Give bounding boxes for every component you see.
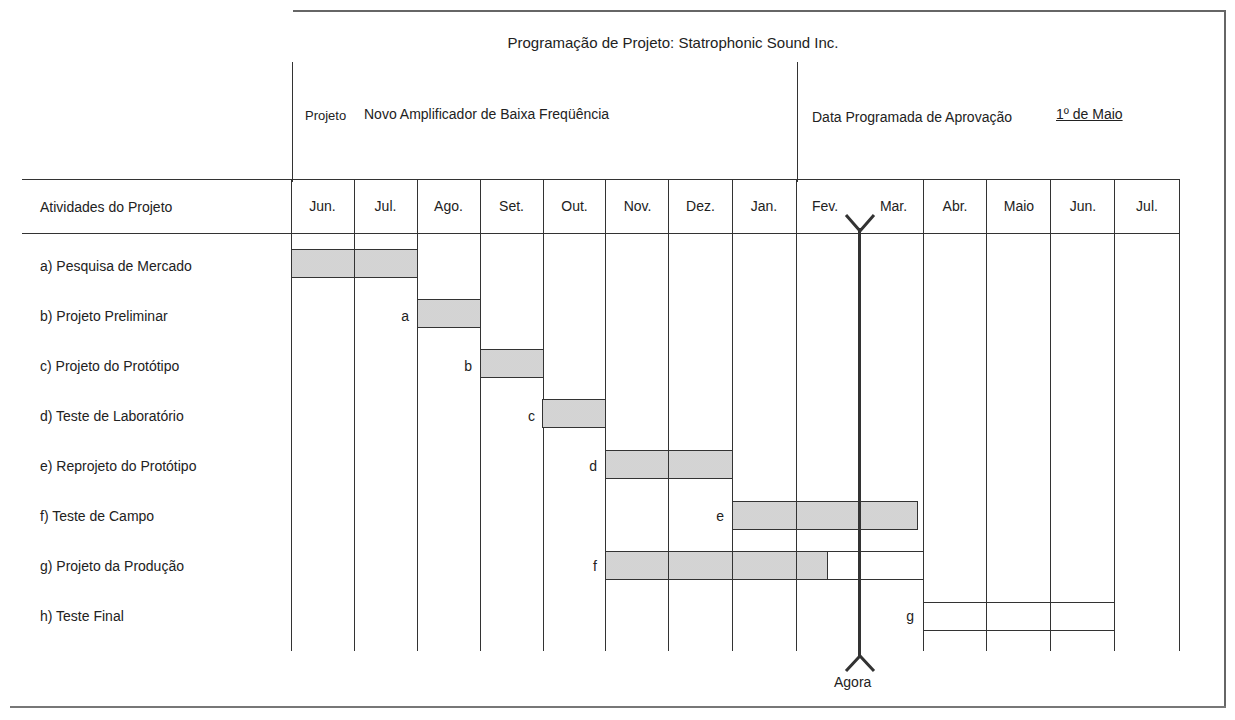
task-bar-c — [480, 349, 544, 378]
header-row-bottom-line — [22, 233, 1180, 234]
grid-line — [923, 179, 924, 651]
now-marker-label: Agora — [834, 674, 871, 690]
frame-bottom-border — [10, 706, 1226, 708]
month-header: Jun. — [291, 180, 354, 233]
predecessor-label: g — [894, 608, 914, 624]
month-header: Abr. — [923, 180, 987, 233]
task-bar-g-progress — [605, 551, 828, 580]
activity-label: c) Projeto do Protótipo — [40, 358, 179, 374]
frame-right-border — [1224, 10, 1226, 707]
grid-line — [732, 179, 733, 651]
grid-line — [1179, 179, 1180, 651]
activities-header: Atividades do Projeto — [40, 199, 172, 215]
project-name: Novo Amplificador de Baixa Freqüência — [364, 106, 609, 122]
month-header: Out. — [543, 180, 606, 233]
bar-divider — [732, 551, 733, 580]
frame-top-border — [293, 10, 1225, 12]
grid-line — [1114, 179, 1115, 651]
predecessor-label: e — [704, 508, 724, 524]
activity-label: h) Teste Final — [40, 608, 124, 624]
grid-line — [668, 179, 669, 651]
predecessor-label: a — [389, 308, 409, 324]
month-header: Jun. — [1051, 180, 1115, 233]
bar-divider — [796, 551, 797, 580]
activity-label: b) Projeto Preliminar — [40, 308, 168, 324]
activity-label: d) Teste de Laboratório — [40, 408, 184, 424]
bar-divider — [668, 450, 669, 479]
task-bar-b — [417, 299, 481, 328]
bar-divider — [986, 602, 987, 631]
bar-divider — [796, 501, 797, 530]
activity-label: f) Teste de Campo — [40, 508, 154, 524]
bar-divider — [354, 249, 355, 278]
month-header: Set. — [480, 180, 543, 233]
month-header: Nov. — [606, 180, 669, 233]
task-bar-d — [542, 399, 606, 428]
grid-line — [796, 179, 797, 651]
task-bar-f — [732, 501, 918, 530]
month-header: Ago. — [417, 180, 480, 233]
month-header: Dez. — [669, 180, 732, 233]
project-label: Projeto — [305, 108, 346, 123]
grid-line — [480, 179, 481, 651]
month-header: Jul. — [1115, 180, 1179, 233]
now-marker-bottom-arrow-icon — [843, 652, 877, 674]
predecessor-label: d — [577, 458, 597, 474]
header-left-divider — [292, 62, 293, 182]
header-mid-divider — [797, 62, 798, 182]
month-header: Maio — [987, 180, 1051, 233]
grid-line — [986, 179, 987, 651]
now-marker-line — [858, 228, 861, 656]
predecessor-label: b — [452, 358, 472, 374]
task-bar-h — [923, 602, 1115, 631]
task-bar-e — [605, 450, 733, 479]
schedule-title: Programação de Projeto: Statrophonic Sou… — [293, 34, 1053, 51]
now-marker-top-arrow-icon — [843, 212, 877, 234]
predecessor-label: f — [577, 558, 597, 574]
bar-divider — [1050, 602, 1051, 631]
activity-label: g) Projeto da Produção — [40, 558, 184, 574]
month-header: Jul. — [354, 180, 417, 233]
approval-label: Data Programada de Aprovação — [812, 109, 1012, 125]
predecessor-label: c — [515, 408, 535, 424]
grid-line — [1050, 179, 1051, 651]
bar-divider — [668, 551, 669, 580]
activity-label: a) Pesquisa de Mercado — [40, 258, 192, 274]
approval-date: 1º de Maio — [1056, 106, 1123, 122]
month-header: Jan. — [732, 180, 796, 233]
activity-label: e) Reprojeto do Protótipo — [40, 458, 196, 474]
